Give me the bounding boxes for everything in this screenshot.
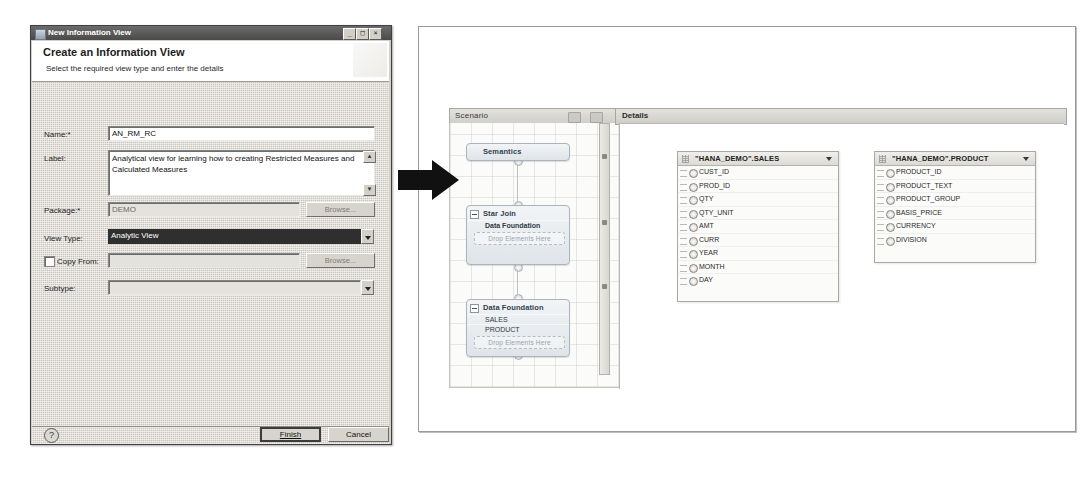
connector-semantics-starjoin xyxy=(517,161,518,205)
column-name: QTY_UNIT xyxy=(699,209,734,216)
view-type-label: View Type: xyxy=(44,234,83,243)
link-icon xyxy=(680,278,687,285)
node-row[interactable]: PRODUCT xyxy=(467,324,569,334)
table-row[interactable]: QTY xyxy=(678,193,838,207)
link-icon xyxy=(680,197,687,204)
link-icon xyxy=(877,184,884,191)
finish-button[interactable]: Finish xyxy=(260,427,321,442)
new-information-view-dialog: New Information View _ □ × Create an Inf… xyxy=(30,25,392,445)
table-footer-space xyxy=(678,287,838,301)
view-type-chevron-down-icon[interactable] xyxy=(361,229,374,244)
drag-grip-icon[interactable] xyxy=(879,155,886,163)
name-input[interactable]: AN_RM_RC xyxy=(108,126,375,141)
link-icon xyxy=(680,224,687,231)
copy-from-input[interactable] xyxy=(108,253,300,268)
join-tool-icon[interactable] xyxy=(602,220,607,225)
finish-button-label: Finish xyxy=(280,430,301,439)
node-row[interactable]: Data Foundation xyxy=(467,220,569,230)
close-button[interactable]: × xyxy=(369,28,382,40)
column-name: AMT xyxy=(699,222,714,229)
key-icon xyxy=(886,223,895,232)
key-icon xyxy=(689,277,698,286)
details-table-product[interactable]: "HANA_DEMO".PRODUCT PRODUCT_ID PRODUCT_T… xyxy=(874,151,1036,263)
view-type-select[interactable]: Analytic View xyxy=(108,229,361,244)
pointer-tool-icon[interactable] xyxy=(602,154,607,159)
package-input[interactable]: DEMO xyxy=(108,202,300,217)
table-name: "HANA_DEMO".SALES xyxy=(695,154,779,163)
details-canvas[interactable]: "HANA_DEMO".SALES CUST_ID PROD_ID xyxy=(619,123,1064,389)
chevron-down-icon[interactable] xyxy=(1023,157,1029,161)
drag-grip-icon[interactable] xyxy=(682,155,689,163)
key-icon xyxy=(689,237,698,246)
scenario-title: Scenario xyxy=(455,111,488,120)
column-name: DIVISION xyxy=(896,236,927,243)
wizard-illustration xyxy=(353,43,387,77)
table-row[interactable]: CURR xyxy=(678,234,838,248)
label-scroll-down[interactable]: ▼ xyxy=(363,184,376,196)
cancel-button[interactable]: Cancel xyxy=(328,427,389,442)
node-row[interactable]: SALES xyxy=(467,314,569,324)
node-dropzone[interactable]: Drop Elements Here xyxy=(474,336,565,349)
help-icon[interactable]: ? xyxy=(44,428,59,443)
table-row[interactable]: DIVISION xyxy=(875,234,1035,247)
subtype-chevron-down-icon[interactable] xyxy=(361,280,374,295)
column-name: QTY xyxy=(699,195,713,202)
link-icon xyxy=(877,211,884,218)
table-row[interactable]: PRODUCT_ID xyxy=(875,166,1035,180)
scenario-node-semantics[interactable]: Semantics xyxy=(466,143,570,161)
copy-from-checkbox[interactable] xyxy=(44,256,55,267)
node-title: Star Join xyxy=(467,206,569,220)
details-table-sales[interactable]: "HANA_DEMO".SALES CUST_ID PROD_ID xyxy=(677,151,839,302)
node-dropzone[interactable]: Drop Elements Here xyxy=(474,232,565,245)
table-row[interactable]: MONTH xyxy=(678,261,838,275)
package-label: Package:* xyxy=(44,206,80,215)
table-row[interactable]: BASIS_PRICE xyxy=(875,207,1035,221)
copy-from-label: Copy From: xyxy=(57,257,99,266)
table-row[interactable]: AMT xyxy=(678,220,838,234)
right-arrow xyxy=(398,158,460,202)
key-icon xyxy=(689,183,698,192)
label-textarea[interactable]: Analytical view for learning how to crea… xyxy=(108,150,375,196)
package-browse-button[interactable]: Browse... xyxy=(306,202,375,217)
table-row[interactable]: YEAR xyxy=(678,247,838,261)
dialog-titlebar[interactable]: New Information View _ □ × xyxy=(31,26,391,40)
table-row[interactable]: CURRENCY xyxy=(875,220,1035,234)
scenario-node-data-foundation[interactable]: Data Foundation SALES PRODUCT Drop Eleme… xyxy=(466,299,570,357)
dialog-footer: ? Finish Cancel xyxy=(32,426,389,444)
link-icon xyxy=(680,251,687,258)
copy-from-browse-button[interactable]: Browse... xyxy=(306,253,375,268)
column-name: PRODUCT_TEXT xyxy=(896,182,952,189)
chevron-down-icon[interactable] xyxy=(826,157,832,161)
dialog-banner: Create an Information View Select the re… xyxy=(32,41,389,82)
key-icon xyxy=(689,169,698,178)
scenario-vertical-toolbar[interactable] xyxy=(599,123,610,375)
minimize-button[interactable]: _ xyxy=(343,28,356,40)
table-header[interactable]: "HANA_DEMO".PRODUCT xyxy=(875,152,1035,166)
column-name: CUST_ID xyxy=(699,168,729,175)
maximize-button[interactable]: □ xyxy=(356,28,369,40)
window-icon xyxy=(35,29,46,40)
key-icon xyxy=(689,196,698,205)
table-name: "HANA_DEMO".PRODUCT xyxy=(892,154,989,163)
add-object-tool-icon[interactable] xyxy=(602,284,607,289)
link-icon xyxy=(877,197,884,204)
node-title: Data Foundation xyxy=(467,300,569,314)
table-row[interactable]: PRODUCT_TEXT xyxy=(875,180,1035,194)
subtype-select[interactable] xyxy=(108,280,361,295)
auto-layout-icon[interactable] xyxy=(568,112,581,123)
table-row[interactable]: PROD_ID xyxy=(678,180,838,194)
details-pane: Details "HANA_DEMO".SALES CUST_ID xyxy=(615,108,1065,390)
table-header[interactable]: "HANA_DEMO".SALES xyxy=(678,152,838,166)
link-icon xyxy=(680,170,687,177)
table-row[interactable]: CUST_ID xyxy=(678,166,838,180)
table-footer-space xyxy=(875,246,1035,262)
key-icon xyxy=(689,223,698,232)
table-row[interactable]: PRODUCT_GROUP xyxy=(875,193,1035,207)
table-row[interactable]: QTY_UNIT xyxy=(678,207,838,221)
table-row[interactable]: DAY xyxy=(678,274,838,287)
scenario-node-star-join[interactable]: Star Join Data Foundation Drop Elements … xyxy=(466,205,570,265)
key-icon xyxy=(886,196,895,205)
zoom-fit-icon[interactable] xyxy=(590,112,603,123)
banner-heading: Create an Information View xyxy=(43,46,185,58)
label-scroll-up[interactable]: ▲ xyxy=(363,151,376,163)
